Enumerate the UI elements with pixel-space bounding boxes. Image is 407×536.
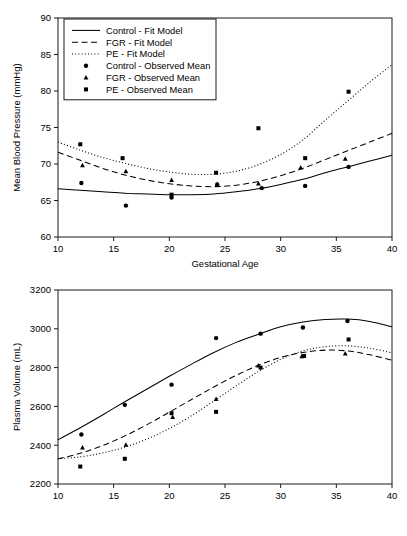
square-marker-swatch: [84, 87, 88, 91]
data-point-circle: [260, 186, 264, 190]
data-points-fgr-obs: [80, 156, 348, 186]
data-point-square: [347, 90, 351, 94]
x-tick-label: 10: [53, 243, 64, 254]
data-point-square: [347, 337, 351, 341]
data-point-circle: [301, 325, 305, 329]
x-axis-title: Gestational Age: [191, 258, 258, 269]
y-tick-label: 2800: [30, 362, 51, 373]
y-tick-label: 85: [40, 49, 51, 60]
data-point-square: [121, 156, 125, 160]
data-point-triangle: [298, 165, 303, 169]
x-tick-label: 25: [220, 243, 231, 254]
chart-panel-plasma-volume: 10152025303540220024002600280030003200Pl…: [0, 272, 407, 536]
fit-line-pe-fit: [58, 346, 392, 459]
chart-panel-blood-pressure: 1015202530354060657075808590Gestational …: [0, 0, 407, 272]
legend-item-label: PE - Observed Mean: [106, 85, 193, 95]
data-point-square: [256, 126, 260, 130]
x-tick-label: 30: [275, 490, 286, 501]
legend-item-label: FGR - Observed Mean: [106, 73, 200, 83]
y-tick-label: 2400: [30, 440, 51, 451]
y-tick-label: 2600: [30, 401, 51, 412]
data-point-square: [303, 156, 307, 160]
data-point-square: [78, 465, 82, 469]
data-points-pe-obs: [78, 90, 350, 197]
y-tick-label: 75: [40, 122, 51, 133]
data-point-square: [214, 171, 218, 175]
y-tick-label: 3000: [30, 323, 51, 334]
data-points-pe-obs: [78, 337, 350, 468]
fit-line-fgr-fit: [58, 350, 392, 459]
y-axis-title: Mean Blood Pressure (mmHg): [11, 63, 22, 191]
legend-item-label: Control - Observed Mean: [106, 61, 210, 71]
data-points-control-obs: [79, 319, 349, 437]
data-point-circle: [345, 319, 349, 323]
x-tick-label: 35: [331, 490, 342, 501]
data-point-triangle: [124, 169, 129, 173]
data-point-triangle: [343, 156, 348, 160]
x-tick-label: 35: [331, 243, 342, 254]
x-tick-label: 20: [164, 243, 175, 254]
data-points-fgr-obs: [80, 351, 348, 449]
y-axis-title: Plasma Volume (mL): [11, 343, 22, 431]
data-point-square: [170, 193, 174, 197]
fit-line-fgr-fit: [58, 133, 392, 186]
data-point-circle: [169, 382, 173, 386]
y-tick-label: 80: [40, 85, 51, 96]
data-point-circle: [79, 432, 83, 436]
data-point-circle: [79, 181, 83, 185]
y-tick-label: 90: [40, 12, 51, 23]
x-tick-label: 10: [53, 490, 64, 501]
data-point-triangle: [343, 351, 348, 355]
legend-item-label: Control - Fit Model: [106, 26, 182, 36]
legend-item-label: FGR - Fit Model: [106, 38, 172, 48]
x-tick-label: 15: [108, 243, 119, 254]
data-point-circle: [258, 331, 262, 335]
plasma-volume-chart: 10152025303540220024002600280030003200Pl…: [0, 272, 407, 536]
data-point-circle: [214, 336, 218, 340]
data-point-square: [170, 411, 174, 415]
data-point-circle: [346, 165, 350, 169]
y-tick-label: 2200: [30, 478, 51, 489]
legend: Control - Fit ModelFGR - Fit ModelPE - F…: [64, 19, 216, 100]
legend-item-label: PE - Fit Model: [106, 49, 165, 59]
y-tick-label: 70: [40, 158, 51, 169]
data-point-circle: [124, 203, 128, 207]
circle-glyph: [84, 64, 88, 68]
fit-line-control-fit: [58, 319, 392, 440]
y-tick-label: 65: [40, 195, 51, 206]
blood-pressure-chart: 1015202530354060657075808590Gestational …: [0, 0, 407, 272]
data-point-circle: [303, 184, 307, 188]
data-point-circle: [123, 403, 127, 407]
x-tick-label: 40: [387, 243, 398, 254]
x-tick-label: 15: [108, 490, 119, 501]
data-point-square: [123, 457, 127, 461]
y-tick-label: 3200: [30, 284, 51, 295]
data-point-square: [302, 354, 306, 358]
x-tick-label: 20: [164, 490, 175, 501]
data-point-square: [78, 142, 82, 146]
circle-marker-swatch: [84, 64, 88, 68]
data-point-triangle: [80, 163, 85, 167]
x-tick-label: 25: [220, 490, 231, 501]
figure-root: 1015202530354060657075808590Gestational …: [0, 0, 407, 536]
data-point-triangle: [169, 177, 174, 181]
data-point-square: [214, 410, 218, 414]
fit-line-control-fit: [58, 155, 392, 195]
data-point-triangle: [80, 445, 85, 449]
x-tick-label: 40: [387, 490, 398, 501]
y-tick-label: 60: [40, 231, 51, 242]
square-glyph: [84, 87, 88, 91]
data-point-square: [259, 366, 263, 370]
data-point-triangle: [124, 442, 129, 446]
x-tick-label: 30: [275, 243, 286, 254]
